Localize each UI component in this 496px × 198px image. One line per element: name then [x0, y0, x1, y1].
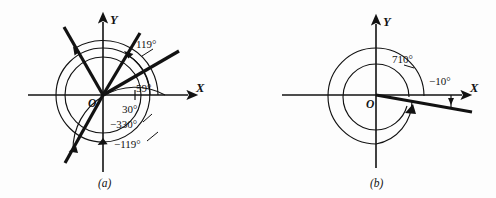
panel-b: X Y O 710° −10° (b)	[282, 15, 479, 190]
angle-label-119-a: 119°	[136, 38, 157, 50]
angle-diagram-svg: X Y O 30° 59° 119° −330° −119° (a)	[0, 0, 496, 198]
x-axis-label-a: X	[195, 81, 205, 95]
origin-label-a: O	[88, 97, 96, 109]
leader-neg119-a	[147, 132, 158, 141]
x-axis-label-b: X	[469, 81, 479, 95]
spiral-arrowhead-b	[405, 104, 416, 114]
origin-label-b: O	[366, 98, 374, 110]
figure-container: X Y O 30° 59° 119° −330° −119° (a)	[0, 0, 496, 198]
angle-label-neg119-a: −119°	[114, 138, 141, 150]
ray-neg10-b	[376, 95, 472, 112]
caption-a: (a)	[98, 177, 112, 190]
caption-b: (b)	[370, 177, 384, 190]
leader-119-a	[142, 49, 153, 56]
panel-a: X Y O 30° 59° 119° −330° −119° (a)	[28, 13, 205, 190]
angle-label-30-a: 30°	[122, 103, 137, 115]
angle-label-neg10-b: −10°	[429, 75, 451, 87]
angle-label-710-b: 710°	[392, 53, 413, 65]
angle-label-neg330-a: −330°	[110, 118, 137, 130]
y-axis-label-b: Y	[383, 15, 392, 29]
tick-arrowhead-neg10-b	[448, 98, 454, 105]
y-axis-label-a: Y	[110, 13, 119, 27]
angle-label-59-a: 59°	[136, 82, 151, 94]
